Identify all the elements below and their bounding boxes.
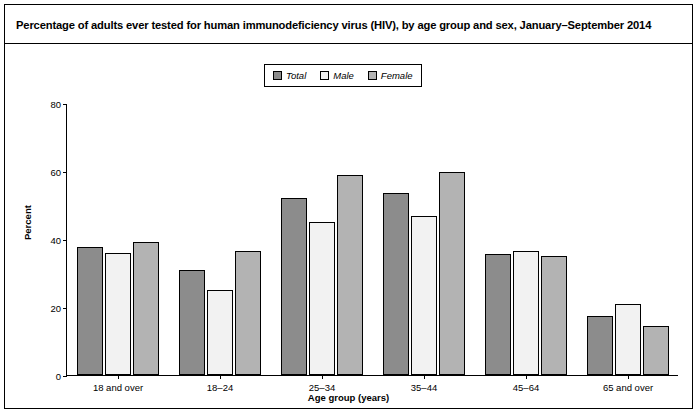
bar-group bbox=[169, 104, 271, 375]
bar bbox=[309, 222, 335, 375]
legend-swatch-icon bbox=[368, 71, 377, 80]
x-axis-tick-mark bbox=[118, 375, 119, 379]
y-axis-tick-mark bbox=[63, 308, 67, 309]
bar bbox=[207, 290, 233, 375]
legend-item: Female bbox=[368, 70, 413, 81]
bar bbox=[281, 198, 307, 375]
bar-group bbox=[67, 104, 169, 375]
legend-label: Total bbox=[286, 70, 306, 81]
legend-item: Total bbox=[273, 70, 306, 81]
bar bbox=[411, 216, 437, 375]
legend-item: Male bbox=[320, 70, 354, 81]
legend-swatch-icon bbox=[320, 71, 329, 80]
bar bbox=[337, 175, 363, 375]
bar bbox=[133, 242, 159, 375]
y-axis-tick-mark bbox=[63, 104, 67, 105]
plot-area: 02040608018 and over18–2425–3435–4445–64… bbox=[66, 104, 678, 376]
y-axis-tick-mark bbox=[63, 376, 67, 377]
bar bbox=[235, 251, 261, 375]
chart-legend: TotalMaleFemale bbox=[264, 64, 422, 87]
x-axis-tick-mark bbox=[424, 375, 425, 379]
legend-label: Male bbox=[333, 70, 354, 81]
x-axis-tick-mark bbox=[628, 375, 629, 379]
bar bbox=[485, 254, 511, 375]
bar-group bbox=[577, 104, 679, 375]
x-axis-tick-mark bbox=[220, 375, 221, 379]
legend-label: Female bbox=[381, 70, 413, 81]
x-axis-tick-mark bbox=[526, 375, 527, 379]
chart-title: Percentage of adults ever tested for hum… bbox=[16, 18, 676, 32]
x-axis-tick-mark bbox=[322, 375, 323, 379]
bar bbox=[541, 256, 567, 375]
legend-swatch-icon bbox=[273, 71, 282, 80]
bar bbox=[105, 253, 131, 375]
bar bbox=[439, 172, 465, 375]
title-divider bbox=[5, 43, 692, 44]
bar-group bbox=[373, 104, 475, 375]
bar bbox=[513, 251, 539, 375]
bar bbox=[77, 247, 103, 375]
figure-container: Percentage of adults ever tested for hum… bbox=[0, 0, 697, 413]
bar-group bbox=[475, 104, 577, 375]
bar-group bbox=[271, 104, 373, 375]
y-axis-tick-mark bbox=[63, 240, 67, 241]
bar bbox=[587, 316, 613, 375]
x-axis-title: Age group (years) bbox=[0, 392, 697, 403]
bar bbox=[615, 304, 641, 375]
bars-layer bbox=[67, 104, 678, 375]
bar bbox=[179, 270, 205, 375]
y-axis-title: Percent bbox=[22, 205, 33, 240]
bar bbox=[643, 326, 669, 375]
y-axis-tick-mark bbox=[63, 172, 67, 173]
bar bbox=[383, 193, 409, 375]
